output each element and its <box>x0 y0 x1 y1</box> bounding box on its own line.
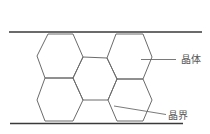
grain-center <box>73 57 117 100</box>
grain-boundary-leader-line <box>114 106 166 115</box>
grain-boundary-label: 晶界 <box>168 110 188 122</box>
crystal-label: 晶体 <box>181 54 201 66</box>
